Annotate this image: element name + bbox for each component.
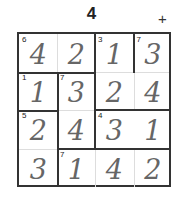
cell-value: 1	[95, 39, 134, 70]
cell-value: 1	[134, 115, 173, 146]
cell-value: 1	[57, 154, 96, 185]
cell-r2c0[interactable]: 52	[19, 110, 58, 149]
cell-value: 2	[57, 39, 96, 70]
cell-r2c2[interactable]: 43	[95, 110, 134, 149]
cell-r2c3[interactable]: 1	[134, 110, 173, 149]
cell-value: 4	[95, 154, 134, 185]
cell-value: 4	[19, 39, 58, 70]
cell-value: 3	[95, 115, 134, 146]
cell-r1c0[interactable]: 11	[19, 72, 58, 111]
cell-r2c1[interactable]: 4	[57, 110, 96, 149]
cell-value: 3	[134, 39, 173, 70]
cell-value: 3	[19, 154, 58, 185]
cell-r3c3[interactable]: 2	[134, 149, 173, 188]
cell-r0c0[interactable]: 64	[19, 34, 58, 73]
cell-r3c2[interactable]: 4	[95, 149, 134, 188]
puzzle-grid: 64 2 31 73 11 73 2 4 52 4 43 1 3 71 4 2	[17, 32, 171, 187]
cell-r1c1[interactable]: 73	[57, 72, 96, 111]
cell-r3c0[interactable]: 3	[19, 149, 58, 188]
cell-value: 2	[19, 115, 58, 146]
cell-value: 2	[134, 154, 173, 185]
add-button[interactable]: +	[158, 10, 167, 27]
cell-r1c3[interactable]: 4	[134, 72, 173, 111]
cell-value: 4	[57, 115, 96, 146]
cell-r0c2[interactable]: 31	[95, 34, 134, 73]
cell-r3c1[interactable]: 71	[57, 149, 96, 188]
cell-value: 2	[95, 77, 134, 108]
cell-r1c2[interactable]: 2	[95, 72, 134, 111]
cell-value: 1	[19, 77, 58, 108]
cell-value: 4	[134, 77, 173, 108]
cell-value: 3	[57, 77, 96, 108]
cell-r0c1[interactable]: 2	[57, 34, 96, 73]
puzzle-title: 4	[0, 4, 183, 24]
cell-r0c3[interactable]: 73	[134, 34, 173, 73]
